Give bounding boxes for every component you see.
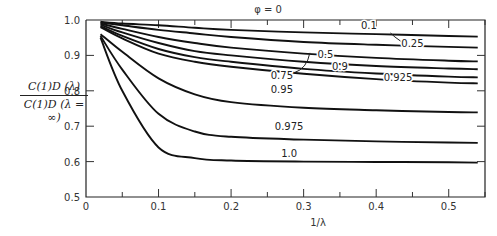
x-tick-label: 0.2 [223, 201, 239, 212]
y-tick-label: 0.6 [64, 157, 80, 168]
y-tick-label: 0.9 [64, 50, 80, 61]
y-axis-label: C(1)D (λ) C(1)D (λ = ∞) [20, 80, 88, 124]
plot-area: 00.10.20.30.40.5 0.50.60.70.80.91.0 0.10… [64, 15, 485, 212]
x-tick-label: 0.5 [441, 201, 457, 212]
y-axis-label-numerator: C(1)D (λ) [20, 80, 88, 96]
x-tick-label: 0.4 [368, 201, 384, 212]
curve-1-0 [101, 38, 478, 163]
x-tick-label: 0.3 [296, 201, 312, 212]
curve-label: 0.25 [401, 38, 423, 49]
x-axis-label: 1/λ [310, 217, 326, 228]
curve-label: 0.1 [361, 20, 377, 31]
chart-title: φ = 0 [254, 4, 282, 15]
x-tick-label: 0 [83, 201, 89, 212]
x-axis-ticks: 00.10.20.30.40.5 [83, 20, 485, 212]
curve-label: 0.9 [332, 61, 348, 72]
curve-label: 0.75 [271, 70, 293, 81]
x-tick-label: 0.1 [151, 201, 167, 212]
y-axis-label-denominator: C(1)D (λ = ∞) [20, 96, 88, 124]
y-tick-label: 0.5 [64, 192, 80, 203]
y-tick-label: 1.0 [64, 15, 80, 26]
curve-label: 1.0 [281, 148, 297, 159]
curve-label: 0.95 [271, 84, 293, 95]
curve-label: 0.5 [317, 49, 333, 60]
curve-label: 0.925 [384, 72, 413, 83]
curve-label: 0.975 [275, 121, 304, 132]
